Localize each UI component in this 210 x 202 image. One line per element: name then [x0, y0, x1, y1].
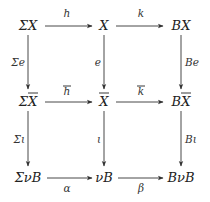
object-sigma-nu-b: ΣνB: [14, 170, 42, 185]
object-x: X: [98, 18, 109, 33]
label-iota: ι: [97, 133, 101, 145]
object-sigma-x: ΣX: [18, 18, 38, 33]
label-k: k: [138, 7, 144, 19]
label-hbar: h: [64, 85, 71, 97]
label-h: h: [64, 7, 71, 19]
object-sigma-xbar: ΣX: [18, 94, 38, 109]
label-e: e: [95, 56, 101, 68]
label-sigma-iota: Σι: [12, 133, 25, 145]
label-b-iota: Bι: [184, 133, 197, 145]
object-xbar: X: [98, 94, 109, 109]
label-kbar: k: [138, 85, 144, 97]
label-be: Be: [184, 56, 199, 68]
label-beta: β: [137, 182, 144, 194]
object-b-nu-b: BνB: [166, 170, 194, 185]
object-nu-b: νB: [95, 170, 112, 185]
commutative-diagram: ΣX X BX ΣX X BX ΣνB νB BνB h k h k α β Σ…: [0, 0, 210, 202]
object-bx: BX: [171, 18, 192, 33]
label-sigma-e: Σe: [10, 56, 25, 68]
object-bxbar: BX: [171, 94, 192, 109]
label-alpha: α: [63, 182, 70, 194]
